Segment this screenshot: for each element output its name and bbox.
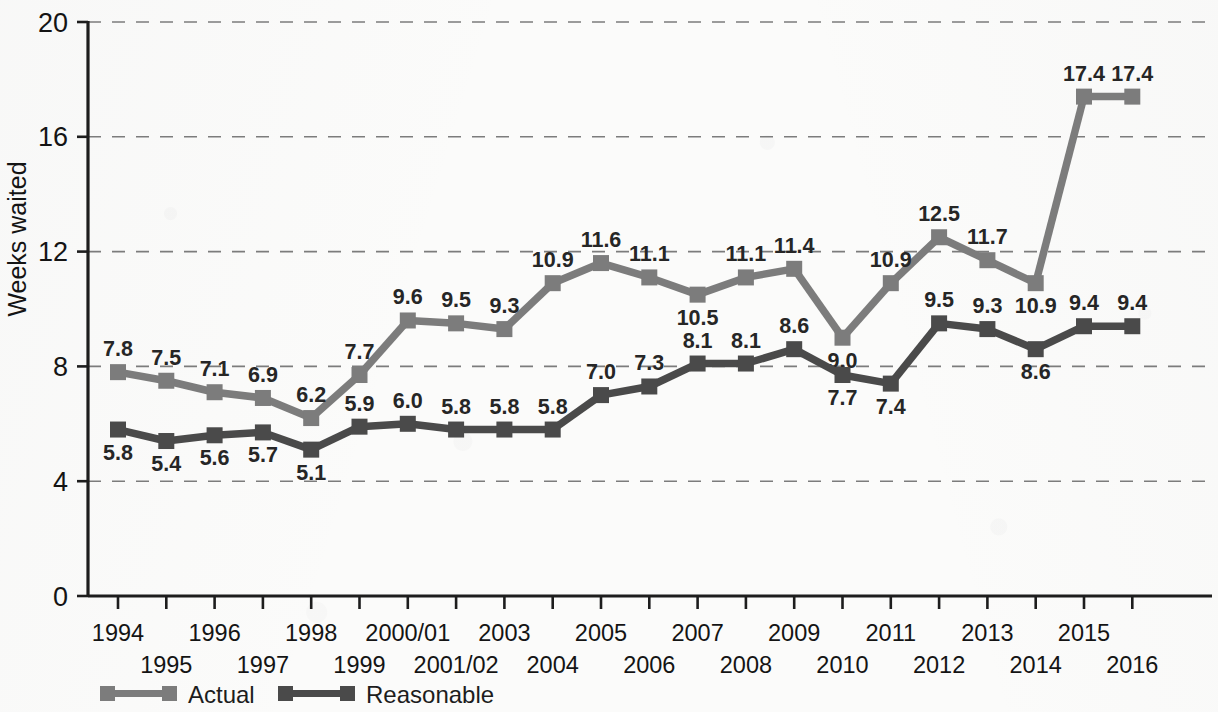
data-label: 8.1: [731, 329, 761, 353]
data-point-marker: [303, 442, 319, 458]
data-label: 9.4: [1117, 291, 1147, 315]
data-point-marker: [786, 341, 802, 357]
data-label: 17.4: [1111, 62, 1153, 86]
data-label: 11.1: [726, 242, 767, 266]
data-label: 11.1: [629, 242, 670, 266]
data-label: 8.1: [683, 329, 713, 353]
data-point-marker: [738, 356, 754, 372]
y-tick-label-4: 4: [53, 467, 68, 497]
data-point-marker: [352, 367, 368, 383]
series-actual: 7.87.57.16.96.27.79.69.59.310.911.611.11…: [103, 62, 1153, 426]
data-point-marker: [931, 315, 947, 331]
data-point-marker: [593, 387, 609, 403]
data-label: 5.4: [151, 452, 181, 476]
data-point-marker: [690, 287, 706, 303]
data-label: 7.5: [151, 346, 181, 370]
data-point-marker: [883, 376, 899, 392]
data-label: 9.5: [441, 288, 471, 312]
legend-item-reasonable[interactable]: Reasonable: [278, 681, 494, 708]
data-label: 17.4: [1063, 62, 1105, 86]
data-label: 6.0: [393, 389, 423, 413]
data-point-marker: [1076, 318, 1092, 334]
data-label: 10.9: [1015, 294, 1057, 318]
legend-item-actual[interactable]: Actual: [100, 681, 255, 708]
legend-marker-left: [100, 686, 115, 701]
data-point-marker: [931, 229, 947, 245]
x-tick-label-2010: 2010: [816, 652, 868, 678]
data-label: 5.7: [248, 443, 278, 467]
data-label: 12.5: [918, 202, 960, 226]
x-tick-label-2014: 2014: [1010, 652, 1062, 678]
x-tick-label-1995: 1995: [140, 652, 192, 678]
x-tick-label-2008: 2008: [720, 652, 772, 678]
data-label: 6.2: [296, 383, 326, 407]
data-point-marker: [641, 378, 657, 394]
y-tick-label-20: 20: [38, 8, 68, 38]
data-point-marker: [110, 364, 126, 380]
data-point-marker: [1028, 275, 1044, 291]
data-point-marker: [158, 433, 174, 449]
data-point-marker: [835, 367, 851, 383]
data-label: 7.7: [828, 386, 858, 410]
x-tick-label-2016: 2016: [1106, 652, 1158, 678]
data-point-marker: [1124, 318, 1140, 334]
data-label: 6.9: [248, 363, 278, 387]
data-label: 11.4: [774, 234, 815, 258]
data-label: 9.3: [972, 294, 1002, 318]
data-label: 9.4: [1069, 291, 1099, 315]
data-point-marker: [786, 261, 802, 277]
y-tick-label-12: 12: [38, 237, 68, 267]
x-tick-label-2004: 2004: [527, 652, 579, 678]
data-label: 11.6: [581, 228, 622, 252]
data-point-marker: [255, 424, 271, 440]
chart-page: 048121620Weeks waited1994199519961997199…: [0, 0, 1218, 712]
x-tick-label-1994: 1994: [92, 620, 144, 646]
data-label: 5.6: [200, 446, 230, 470]
data-point-marker: [255, 390, 271, 406]
data-point-marker: [496, 422, 512, 438]
legend: ActualReasonable: [100, 681, 494, 708]
data-point-marker: [400, 416, 416, 432]
x-tick-label-1996: 1996: [188, 620, 240, 646]
data-label: 9.5: [924, 288, 954, 312]
data-point-marker: [545, 275, 561, 291]
data-point-marker: [883, 275, 899, 291]
x-tick-label-2009: 2009: [768, 620, 820, 646]
data-point-marker: [110, 422, 126, 438]
data-point-marker: [448, 422, 464, 438]
x-tick-label-2012: 2012: [913, 652, 965, 678]
x-tick-label-1999: 1999: [333, 652, 385, 678]
data-point-marker: [641, 269, 657, 285]
legend-marker-left: [278, 686, 293, 701]
data-label: 10.5: [677, 306, 719, 330]
data-label: 5.8: [489, 395, 519, 419]
data-label: 7.7: [345, 340, 375, 364]
data-label: 7.3: [634, 351, 664, 375]
data-point-marker: [303, 410, 319, 426]
data-label: 9.3: [489, 294, 519, 318]
y-tick-label-16: 16: [38, 122, 68, 152]
data-point-marker: [448, 315, 464, 331]
data-point-marker: [207, 384, 223, 400]
data-label: 5.8: [538, 395, 568, 419]
data-label: 5.9: [345, 392, 375, 416]
y-axis-title: Weeks waited: [3, 161, 31, 316]
data-point-marker: [207, 427, 223, 443]
x-tick-label-2000/01: 2000/01: [365, 620, 450, 646]
x-tick-label-1998: 1998: [285, 620, 337, 646]
data-label: 5.1: [296, 461, 326, 485]
data-point-marker: [158, 373, 174, 389]
x-tick-label-2015: 2015: [1058, 620, 1110, 646]
data-label: 7.8: [103, 337, 133, 361]
x-tick-label-2013: 2013: [961, 620, 1013, 646]
series-segment: [891, 323, 939, 383]
data-label: 7.1: [200, 357, 230, 381]
data-point-marker: [690, 356, 706, 372]
data-point-marker: [738, 269, 754, 285]
y-tick-label-0: 0: [53, 582, 68, 612]
data-label: 10.9: [870, 248, 912, 272]
data-label: 8.6: [779, 314, 809, 338]
data-point-marker: [593, 255, 609, 271]
x-tick-label-2006: 2006: [623, 652, 675, 678]
data-point-marker: [835, 330, 851, 346]
